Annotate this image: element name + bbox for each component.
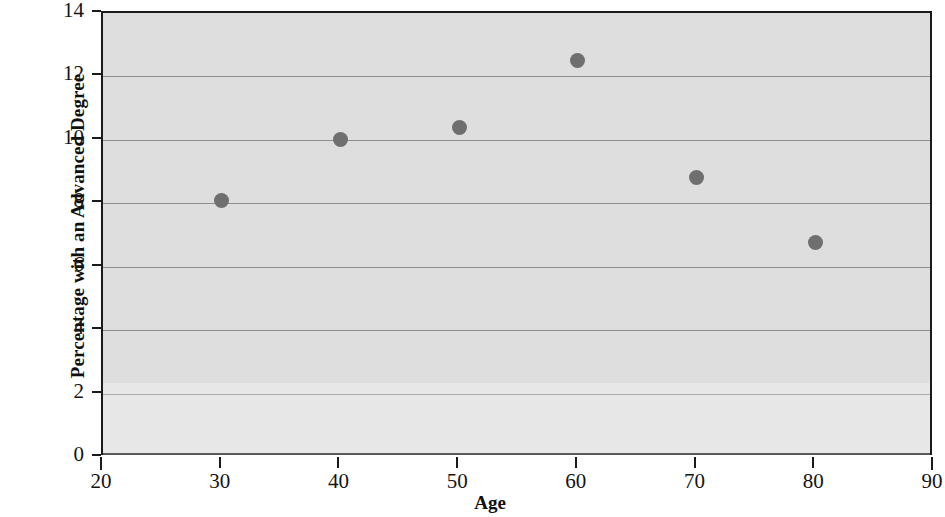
x-tick-label-70: 70 <box>655 470 735 493</box>
x-tick-mark-70 <box>694 457 696 468</box>
y-tick-mark-14 <box>92 10 101 12</box>
x-tick-label-90: 90 <box>892 470 945 493</box>
y-tick-mark-10 <box>92 137 101 139</box>
x-tick-label-60: 60 <box>536 470 616 493</box>
y-tick-label-0: 0 <box>24 444 84 465</box>
y-tick-label-8: 8 <box>24 190 84 211</box>
x-tick-label-50: 50 <box>417 470 497 493</box>
x-tick-mark-30 <box>219 457 221 468</box>
gridline-y-6 <box>103 267 930 268</box>
x-tick-mark-40 <box>337 457 339 468</box>
x-tick-label-30: 30 <box>180 470 260 493</box>
y-tick-label-10: 10 <box>24 127 84 148</box>
data-point-age-40 <box>333 132 348 147</box>
data-point-age-70 <box>689 170 704 185</box>
gridline-y-2 <box>103 394 930 395</box>
x-tick-label-80: 80 <box>773 470 853 493</box>
data-point-age-50 <box>452 120 467 135</box>
scatter-chart-figure: Percentage with an Advanced Degree 02468… <box>0 0 945 517</box>
data-point-age-80 <box>808 235 823 250</box>
gridline-y-4 <box>103 330 930 331</box>
y-tick-label-6: 6 <box>24 254 84 275</box>
y-tick-mark-8 <box>92 200 101 202</box>
plot-inner <box>103 13 930 453</box>
y-tick-label-12: 12 <box>24 63 84 84</box>
gridline-y-12 <box>103 76 930 77</box>
y-tick-mark-2 <box>92 391 101 393</box>
plot-area <box>101 11 932 455</box>
gridline-y-10 <box>103 140 930 141</box>
y-tick-mark-6 <box>92 264 101 266</box>
data-point-age-60 <box>570 53 585 68</box>
y-tick-label-14: 14 <box>24 0 84 21</box>
x-tick-label-20: 20 <box>61 470 141 493</box>
y-tick-label-4: 4 <box>24 317 84 338</box>
y-tick-mark-0 <box>92 454 101 456</box>
y-tick-mark-4 <box>92 327 101 329</box>
x-tick-mark-50 <box>456 457 458 468</box>
x-tick-mark-80 <box>812 457 814 468</box>
x-axis-title: Age <box>0 492 945 514</box>
data-point-age-30 <box>214 193 229 208</box>
y-tick-mark-12 <box>92 73 101 75</box>
x-tick-mark-60 <box>575 457 577 468</box>
y-tick-label-2: 2 <box>24 381 84 402</box>
x-tick-label-40: 40 <box>298 470 378 493</box>
